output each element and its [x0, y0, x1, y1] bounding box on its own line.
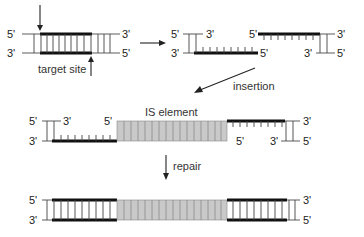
stage4-bottom-right-label: 5' — [303, 214, 311, 226]
stage1-bottom-left-label: 3' — [7, 47, 15, 59]
stage3-inserted-dna: 5' 3' 5' 3' — [29, 106, 311, 147]
is-element — [117, 121, 227, 141]
repair-step-label: repair — [173, 160, 201, 172]
stage3-bottom-left-label: 3' — [29, 135, 37, 147]
stage2-right-bottom-right-label: 5' — [337, 47, 345, 59]
stage1-top-left-label: 5' — [7, 28, 15, 40]
stage4-is-element — [117, 200, 227, 220]
stage3-is-right-bottom-label: 5' — [236, 135, 244, 147]
stage2-left-bottom-right-label: 5' — [260, 47, 268, 59]
is-element-label: IS element — [145, 106, 198, 118]
insertion-step-label: insertion — [233, 80, 275, 92]
right-arrow-icon — [140, 40, 166, 46]
stage3-is-left-top-label: 5' — [104, 115, 112, 127]
stage4-repaired-dna: 5' 3' 3' 5' — [29, 194, 311, 226]
stage1-target-dna: 5' 3' 3' 5' — [7, 5, 130, 76]
transposition-diagram: 5' 3' 3' 5' — [0, 0, 364, 237]
stage3-top-left-end-label: 3' — [63, 115, 71, 127]
stage2-left-top-left-label: 5' — [171, 28, 179, 40]
stage1-base-pairs — [34, 34, 110, 53]
target-site-label: target site — [38, 63, 86, 75]
stage4-left-base-pairs — [47, 200, 110, 220]
stage2-cleaved-dna: 5' 3' 3' 5' 5' 3' 3' 5' — [171, 28, 345, 59]
stage3-top-right-label: 3' — [303, 115, 311, 127]
stage3-top-left-label: 5' — [29, 115, 37, 127]
stage1-top-right-label: 3' — [122, 28, 130, 40]
stage4-bottom-left-label: 3' — [29, 214, 37, 226]
stage4-top-left-label: 5' — [29, 194, 37, 206]
cut-arrow-up-icon — [88, 56, 94, 76]
stage2-right-top-left-label: 5' — [249, 28, 257, 40]
stage4-right-base-pairs — [233, 200, 295, 220]
stage4-top-right-label: 3' — [303, 194, 311, 206]
stage1-bottom-right-label: 5' — [122, 47, 130, 59]
cut-arrow-down-icon — [37, 5, 43, 31]
stage3-bottom-right-end-label: 3' — [270, 135, 278, 147]
stage2-left-bottom-left-label: 3' — [171, 47, 179, 59]
stage2-right-top-right-label: 3' — [337, 28, 345, 40]
repair-arrow-icon — [163, 155, 169, 180]
stage2-right-bottom-left-label: 3' — [304, 47, 312, 59]
stage2-left-top-right-label: 3' — [206, 28, 214, 40]
stage3-bottom-right-label: 5' — [303, 135, 311, 147]
